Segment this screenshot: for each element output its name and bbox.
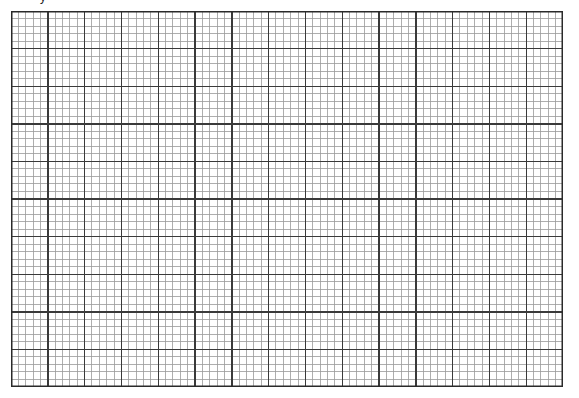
graph-paper-grid: [11, 11, 563, 387]
cropped-caption-text: y: [40, 0, 46, 3]
grid-lines: [11, 11, 563, 387]
